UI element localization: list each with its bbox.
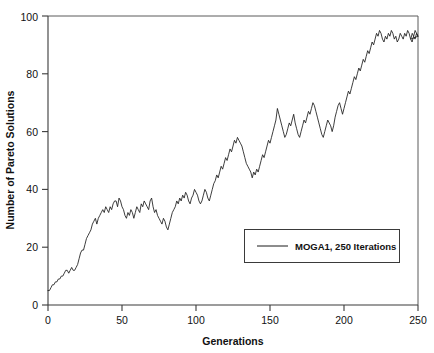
- y-tick-label-40: 40: [26, 183, 38, 195]
- y-axis-ticks: [42, 16, 48, 305]
- x-axis-ticks: [48, 305, 418, 311]
- legend[interactable]: MOGA1, 250 Iterations: [245, 230, 400, 263]
- y-axis-title: Number of Pareto Solutions: [4, 90, 16, 229]
- y-tick-label-100: 100: [20, 11, 38, 23]
- y-tick-label-80: 80: [26, 68, 38, 80]
- x-axis-title: Generations: [202, 335, 263, 347]
- x-tick-label-50: 50: [116, 314, 128, 326]
- chart-figure: 0 20 40 60 80 100 0 50 100 150 200 250 G…: [0, 0, 434, 353]
- y-axis-tick-labels: 0 20 40 60 80 100: [20, 11, 38, 312]
- x-tick-label-250: 250: [409, 314, 427, 326]
- x-tick-label-100: 100: [187, 314, 205, 326]
- legend-label-moga1: MOGA1, 250 Iterations: [295, 241, 396, 252]
- x-tick-label-150: 150: [261, 314, 279, 326]
- pareto-solutions-line-chart: 0 20 40 60 80 100 0 50 100 150 200 250 G…: [0, 0, 434, 353]
- x-tick-label-200: 200: [335, 314, 353, 326]
- y-tick-label-60: 60: [26, 126, 38, 138]
- y-tick-label-0: 0: [32, 299, 38, 311]
- y-tick-label-20: 20: [26, 241, 38, 253]
- x-axis-tick-labels: 0 50 100 150 200 250: [45, 314, 427, 326]
- x-tick-label-0: 0: [45, 314, 51, 326]
